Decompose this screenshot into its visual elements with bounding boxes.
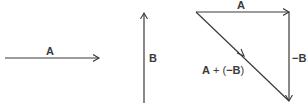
vector-b: B	[144, 13, 157, 103]
vector-diagram: A B A −B A + (−B)	[0, 0, 308, 106]
resultant-label: A + (−B)	[202, 64, 244, 76]
resultant-label-close: )	[241, 64, 245, 76]
vector-b-label: B	[149, 52, 157, 64]
triangle-vector-a-label: A	[237, 0, 245, 11]
vector-a: A	[5, 45, 99, 58]
resultant-line	[196, 12, 289, 101]
resultant-label-a: A	[202, 64, 210, 76]
resultant-label-negb: −B	[226, 64, 240, 76]
resultant-label-plus: + (	[210, 64, 227, 76]
neg-b-label: −B	[292, 52, 306, 64]
vector-a-label: A	[46, 45, 54, 57]
vector-triangle: A −B A + (−B)	[196, 0, 306, 101]
